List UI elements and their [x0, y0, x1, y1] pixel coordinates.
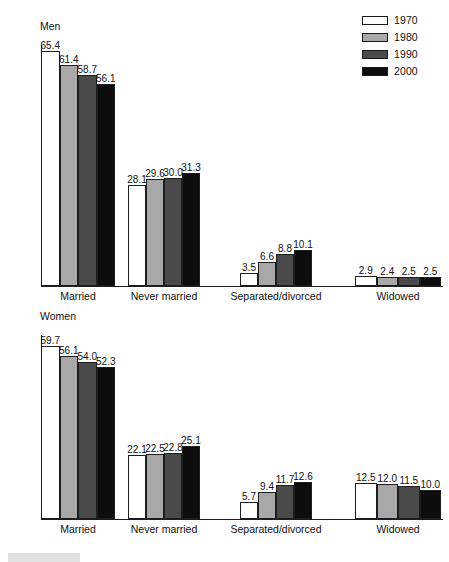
bar-widowed-1980[interactable]: [377, 484, 399, 519]
bar-never-married-1970[interactable]: [128, 185, 146, 286]
x-axis-line: [41, 286, 443, 287]
bar-value-label: 2.5: [415, 266, 445, 277]
chart-page: 1970198019902000 Men65.461.458.756.1Marr…: [0, 0, 449, 562]
bar-separated-divorced-2000[interactable]: [294, 482, 312, 519]
bar-value-label: 65.4: [35, 40, 65, 51]
legend-item-1980[interactable]: 1980: [362, 30, 446, 45]
legend-swatch-1980: [362, 33, 388, 42]
legend-label-1970: 1970: [394, 15, 418, 26]
bar-separated-divorced-1970[interactable]: [240, 273, 258, 286]
bar-married-1990[interactable]: [78, 75, 97, 286]
bar-married-2000[interactable]: [97, 84, 116, 286]
bar-widowed-1980[interactable]: [377, 277, 399, 286]
bar-married-1980[interactable]: [60, 356, 79, 519]
bar-widowed-2000[interactable]: [420, 490, 442, 519]
bar-separated-divorced-1990[interactable]: [276, 485, 294, 519]
bar-married-1990[interactable]: [78, 362, 97, 519]
bar-separated-divorced-1970[interactable]: [240, 502, 258, 519]
category-label-widowed: Widowed: [323, 523, 449, 535]
bar-never-married-1970[interactable]: [128, 455, 146, 519]
bar-never-married-2000[interactable]: [182, 173, 200, 286]
legend-item-1970[interactable]: 1970: [362, 13, 446, 28]
bar-married-1980[interactable]: [60, 65, 79, 286]
bar-never-married-1980[interactable]: [146, 454, 164, 519]
bar-never-married-1980[interactable]: [146, 179, 164, 286]
bar-widowed-1990[interactable]: [398, 277, 420, 286]
bar-separated-divorced-1990[interactable]: [276, 254, 294, 286]
bar-widowed-1970[interactable]: [355, 483, 377, 519]
bar-never-married-1990[interactable]: [164, 178, 182, 286]
bar-widowed-2000[interactable]: [420, 277, 442, 286]
bar-value-label: 10.1: [288, 239, 318, 250]
bar-value-label: 31.3: [176, 162, 206, 173]
bar-never-married-2000[interactable]: [182, 446, 200, 519]
category-label-widowed: Widowed: [323, 290, 449, 302]
bar-separated-divorced-2000[interactable]: [294, 250, 312, 286]
bar-widowed-1990[interactable]: [398, 486, 420, 519]
bar-separated-divorced-1980[interactable]: [258, 492, 276, 519]
bar-value-label: 10.0: [415, 479, 445, 490]
legend-swatch-1970: [362, 16, 388, 25]
bar-married-1970[interactable]: [41, 346, 60, 519]
page-bleed-artifact: [8, 553, 80, 562]
bar-value-label: 12.6: [288, 471, 318, 482]
bar-married-2000[interactable]: [97, 367, 116, 519]
bar-value-label: 59.7: [35, 335, 65, 346]
x-axis-line: [41, 519, 443, 520]
legend-label-1980: 1980: [394, 32, 418, 43]
bar-married-1970[interactable]: [41, 51, 60, 286]
panel-title: Men: [40, 20, 60, 32]
bar-never-married-1990[interactable]: [164, 453, 182, 519]
bar-value-label: 25.1: [176, 435, 206, 446]
panel-title: Women: [40, 310, 76, 322]
bar-widowed-1970[interactable]: [355, 276, 377, 286]
bar-separated-divorced-1980[interactable]: [258, 262, 276, 286]
